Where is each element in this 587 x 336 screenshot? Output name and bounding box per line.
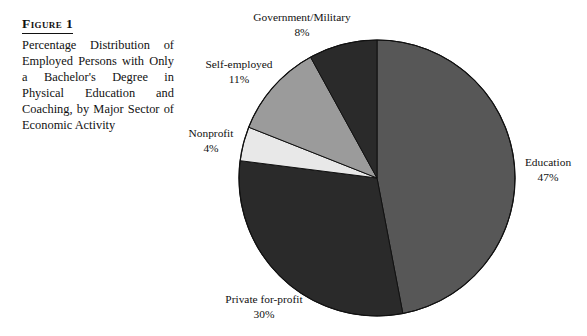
pie-chart-svg (0, 0, 587, 336)
slice-value-nonprofit: 4% (162, 141, 260, 156)
slice-value-government-military: 8% (222, 25, 382, 40)
slice-label-self-employed: Self-employed 11% (180, 57, 298, 87)
slice-label-nonprofit: Nonprofit 4% (162, 126, 260, 156)
slice-value-education: 47% (512, 170, 584, 185)
slice-label-government-military: Government/Military 8% (222, 10, 382, 40)
slice-name-nonprofit: Nonprofit (162, 126, 260, 141)
slice-value-self-employed: 11% (180, 72, 298, 87)
slice-value-private-for-profit: 30% (196, 307, 332, 322)
slice-label-private-for-profit: Private for-profit 30% (196, 292, 332, 322)
pie-chart: Government/Military 8% Self-employed 11%… (0, 0, 587, 336)
slice-name-education: Education (512, 155, 584, 170)
slice-name-private-for-profit: Private for-profit (196, 292, 332, 307)
slice-name-self-employed: Self-employed (180, 57, 298, 72)
pie-slice-education (377, 40, 515, 314)
slice-name-government-military: Government/Military (222, 10, 382, 25)
slice-label-education: Education 47% (512, 155, 584, 185)
